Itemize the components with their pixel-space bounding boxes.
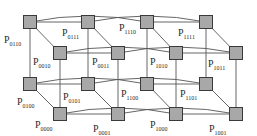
node-label-p0010: P0010 — [33, 57, 51, 71]
node-p0110 — [23, 15, 37, 29]
node-p0100 — [23, 77, 37, 91]
node-p0010 — [53, 46, 67, 60]
label-subscript: 1111 — [184, 34, 195, 40]
node-label-p0101: P0101 — [63, 92, 81, 106]
label-subscript: 1011 — [214, 65, 226, 71]
node-label-p0001: P0001 — [93, 124, 111, 136]
label-subscript: 0010 — [39, 63, 51, 69]
node-p1111 — [199, 15, 213, 29]
node-label-p1110: P1110 — [119, 23, 136, 37]
node-p0000 — [53, 107, 67, 121]
label-subscript: 1001 — [215, 130, 227, 136]
label-subscript: 0000 — [41, 126, 53, 132]
label-subscript: 0001 — [99, 130, 111, 136]
label-subscript: 1110 — [125, 29, 137, 35]
node-label-p1101: P1101 — [180, 89, 197, 103]
node-p1110 — [140, 15, 154, 29]
node-label-p1011: P1011 — [208, 59, 225, 73]
node-label-p1111: P1111 — [178, 28, 195, 42]
node-label-p0000: P0000 — [35, 120, 53, 134]
label-subscript: 0011 — [98, 63, 110, 69]
label-subscript: 1010 — [156, 63, 168, 69]
node-p1100 — [140, 77, 154, 91]
node-p0111 — [81, 15, 95, 29]
node-label-p1001: P1001 — [209, 124, 227, 136]
label-subscript: 1101 — [186, 95, 198, 101]
node-label-p1010: P1010 — [150, 57, 168, 71]
node-label-p0111: P0111 — [62, 28, 79, 42]
label-subscript: 0100 — [23, 103, 35, 109]
node-p1001 — [229, 107, 243, 121]
node-label-p1100: P1100 — [121, 89, 138, 103]
node-label-p1000: P1000 — [150, 120, 168, 134]
node-label-p0011: P0011 — [92, 57, 109, 71]
node-p1011 — [229, 46, 243, 60]
label-subscript: 0111 — [68, 34, 80, 40]
label-subscript: 0101 — [69, 98, 81, 104]
node-label-p0110: P0110 — [4, 35, 21, 49]
label-subscript: 1100 — [127, 95, 139, 101]
label-subscript: 1000 — [156, 126, 168, 132]
node-p0101 — [81, 77, 95, 91]
node-label-p0100: P0100 — [17, 97, 35, 111]
label-subscript: 0110 — [10, 41, 22, 47]
node-p1101 — [199, 77, 213, 91]
node-p0011 — [111, 46, 125, 60]
node-p0001 — [111, 107, 125, 121]
node-p1000 — [169, 107, 183, 121]
hypercube-diagram: P0110P0111P1110P1111P0010P0011P1010P1011… — [0, 0, 257, 136]
node-p1010 — [169, 46, 183, 60]
